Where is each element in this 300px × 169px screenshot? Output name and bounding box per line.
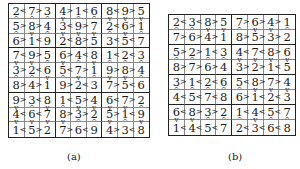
grid-cell: 3<^	[118, 122, 134, 137]
vertical-inequality-mark: ^	[138, 60, 144, 67]
greater-than-sign: >	[196, 63, 203, 71]
grid-cell: 2<^	[232, 120, 248, 135]
grid-cell: 5>v	[248, 30, 264, 45]
greater-than-sign: >	[35, 125, 42, 133]
vertical-inequality-mark: v	[108, 16, 112, 23]
greater-than-sign: >	[275, 18, 282, 26]
greater-than-sign: >	[243, 93, 250, 101]
vertical-inequality-mark: ^	[29, 105, 35, 112]
puzzle-grid-a: 2<7>34>1<68<9>55>^8>^4^3<v9>^7^2<v6>v1v6…	[8, 3, 150, 138]
less-than-sign: <	[113, 21, 120, 29]
greater-than-sign: >	[20, 95, 27, 103]
greater-than-sign: >	[180, 78, 187, 86]
greater-than-sign: >	[67, 110, 74, 118]
grid-cell: 1<v	[264, 60, 280, 75]
greater-than-sign: >	[20, 36, 27, 44]
vertical-inequality-mark: ^	[138, 75, 144, 82]
greater-than-sign: >	[113, 66, 120, 74]
greater-than-sign: >	[212, 108, 219, 116]
grid-cell: 6>^	[232, 90, 248, 105]
vertical-inequality-mark: ^	[29, 16, 35, 23]
greater-than-sign: >	[259, 33, 266, 41]
grid-cell: 2<v	[264, 90, 280, 105]
less-than-sign: <	[82, 125, 89, 133]
greater-than-sign: >	[35, 51, 42, 59]
grid-cell: 7>^	[185, 60, 201, 75]
greater-than-sign: >	[196, 48, 203, 56]
grid-cell: 1v	[40, 78, 56, 93]
greater-than-sign: >	[20, 21, 27, 29]
less-than-sign: <	[196, 18, 203, 26]
grid-row: 6>^1<v9^2<v8>v5v3<^5<v7^	[9, 34, 149, 49]
vertical-inequality-mark: v	[61, 60, 65, 67]
less-than-sign: <	[129, 110, 136, 118]
vertical-inequality-mark: v	[108, 75, 112, 82]
less-than-sign: <	[275, 63, 282, 71]
vertical-inequality-mark: ^	[205, 57, 211, 64]
grid-row: 5>2>1<34<7<8>6	[169, 45, 295, 60]
less-than-sign: <	[129, 51, 136, 59]
less-than-sign: <	[212, 48, 219, 56]
grid-cell: 8^	[216, 90, 232, 105]
greater-than-sign: >	[275, 48, 282, 56]
greater-than-sign: >	[180, 33, 187, 41]
vertical-inequality-mark: ^	[205, 117, 211, 124]
grid-cell: 8>^	[9, 78, 25, 93]
less-than-sign: <	[259, 48, 266, 56]
greater-than-sign: >	[259, 18, 266, 26]
vertical-inequality-mark: v	[139, 16, 143, 23]
vertical-inequality-mark: v	[108, 105, 112, 112]
grid-cell: 4<v	[185, 120, 201, 135]
grid-cell: 1<v	[9, 122, 25, 137]
grid-cell: 2<v	[71, 78, 87, 93]
greater-than-sign: >	[35, 80, 42, 88]
vertical-inequality-mark: v	[61, 119, 65, 126]
grid-cell: 5v	[87, 34, 103, 49]
greater-than-sign: >	[67, 125, 74, 133]
vertical-inequality-mark: ^	[221, 87, 227, 94]
grid-cell: 1<v	[169, 120, 185, 135]
grid-cell: 3^	[87, 78, 103, 93]
vertical-inequality-mark: ^	[189, 57, 195, 64]
less-than-sign: <	[275, 108, 282, 116]
less-than-sign: <	[129, 80, 136, 88]
vertical-inequality-mark: v	[123, 105, 127, 112]
grid-cell: 7^	[134, 34, 150, 49]
grid-cell: 3>v	[232, 60, 248, 75]
grid-cell: 6>^	[9, 34, 25, 49]
vertical-inequality-mark: ^	[284, 117, 290, 124]
grid-row: 2<3<8>57>6>4>1	[169, 15, 295, 30]
vertical-inequality-mark: ^	[60, 75, 66, 82]
vertical-inequality-mark: ^	[91, 119, 97, 126]
less-than-sign: <	[129, 36, 136, 44]
greater-than-sign: >	[243, 63, 250, 71]
vertical-inequality-mark: ^	[173, 87, 179, 94]
less-than-sign: <	[180, 18, 187, 26]
vertical-inequality-mark: v	[123, 75, 127, 82]
less-than-sign: <	[212, 123, 219, 131]
less-than-sign: <	[212, 93, 219, 101]
grid-cell: 8v	[134, 122, 150, 137]
less-than-sign: <	[259, 108, 266, 116]
grid-cell: 7>v	[56, 122, 72, 137]
less-than-sign: <	[180, 108, 187, 116]
vertical-inequality-mark: ^	[13, 31, 19, 38]
greater-than-sign: >	[113, 125, 120, 133]
grid-cell: 2>v	[248, 60, 264, 75]
grid-row: 3>1<2<65<8>7>4	[169, 75, 295, 90]
greater-than-sign: >	[113, 110, 120, 118]
caption-a: (a)	[67, 151, 81, 162]
greater-than-sign: >	[35, 21, 42, 29]
vertical-inequality-mark: ^	[13, 16, 19, 23]
vertical-inequality-mark: v	[174, 117, 178, 124]
greater-than-sign: >	[20, 80, 27, 88]
grid-cell: 5<v	[118, 34, 134, 49]
greater-than-sign: >	[20, 66, 27, 74]
greater-than-sign: >	[82, 110, 89, 118]
vertical-inequality-mark: v	[30, 31, 34, 38]
vertical-inequality-mark: ^	[44, 60, 50, 67]
caption-b: (b)	[228, 151, 242, 162]
greater-than-sign: >	[196, 108, 203, 116]
less-than-sign: <	[196, 93, 203, 101]
vertical-inequality-mark: ^	[236, 27, 242, 34]
